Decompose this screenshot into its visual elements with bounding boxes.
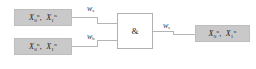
edge-input-b-segment-1 bbox=[72, 46, 97, 47]
edge-weight-wc-sub: c bbox=[168, 25, 170, 30]
node-input-a-term-2: X1n bbox=[46, 13, 57, 22]
node-output-term-2: X1n bbox=[226, 29, 237, 38]
node-output-term-2-sub: 1 bbox=[231, 34, 234, 39]
edge-input-a-segment-1 bbox=[72, 17, 97, 18]
node-output-term-1-base: X bbox=[209, 29, 214, 38]
edge-weight-wb-sub: b bbox=[92, 36, 94, 41]
node-input-b-term-1-sub: 0 bbox=[34, 47, 37, 52]
diagram-canvas: wa wb wc X0n,X1n X0n,X1n & X0n,X1n bbox=[0, 0, 256, 69]
node-output-term-2-sup: n bbox=[234, 29, 237, 34]
node-input-b[interactable]: X0n,X1n bbox=[14, 38, 72, 55]
edge-output-segment-3 bbox=[173, 34, 195, 35]
node-input-a-term-2-sub: 1 bbox=[51, 18, 54, 23]
edge-input-b-segment-3 bbox=[97, 40, 117, 41]
node-input-a-separator: , bbox=[40, 13, 42, 22]
edge-input-b-segment-2 bbox=[97, 40, 98, 47]
node-input-b-term-2-sup: n bbox=[54, 42, 57, 47]
edge-weight-wa-sub: a bbox=[92, 8, 94, 13]
edge-weight-label-wc: wc bbox=[163, 21, 170, 30]
node-input-a[interactable]: X0n,X1n bbox=[14, 9, 72, 26]
node-input-a-term-2-sup: n bbox=[54, 13, 57, 18]
node-output-term-1: X0n bbox=[209, 29, 220, 38]
edge-weight-label-wb: wb bbox=[87, 32, 95, 41]
edge-input-a-segment-3 bbox=[97, 23, 117, 24]
node-input-a-term-1: X0n bbox=[29, 13, 40, 22]
node-input-b-term-2-sub: 1 bbox=[51, 47, 54, 52]
edge-output-segment-1 bbox=[153, 31, 173, 32]
edge-weight-label-wa: wa bbox=[87, 4, 94, 13]
node-input-b-separator: , bbox=[40, 42, 42, 51]
node-input-b-term-2: X1n bbox=[46, 42, 57, 51]
node-output-separator: , bbox=[219, 29, 221, 38]
and-gate-box[interactable]: & bbox=[117, 13, 153, 49]
node-output-term-1-sub: 0 bbox=[214, 34, 217, 39]
node-input-a-term-1-sup: n bbox=[37, 13, 40, 18]
node-input-a-term-1-sub: 0 bbox=[34, 18, 37, 23]
node-output[interactable]: X0n,X1n bbox=[195, 25, 250, 42]
node-input-b-term-1: X0n bbox=[29, 42, 40, 51]
and-gate-symbol: & bbox=[131, 26, 138, 36]
node-output-term-1-sup: n bbox=[217, 29, 220, 34]
node-input-b-term-1-sup: n bbox=[37, 42, 40, 47]
